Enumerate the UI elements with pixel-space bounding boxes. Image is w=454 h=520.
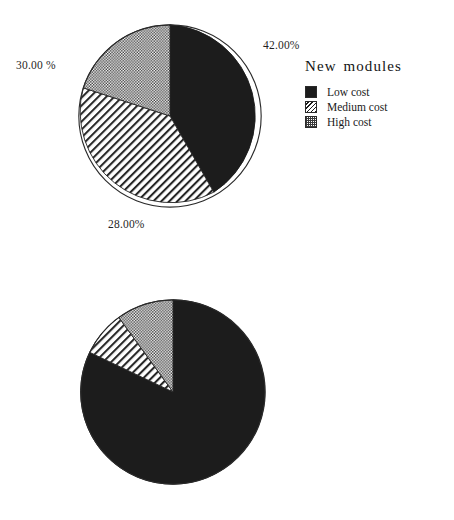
legend-swatch-medium-cost-icon	[305, 101, 317, 113]
pie-label-high-cost: 30.00 %	[16, 59, 56, 71]
pie-svg-reused-modules	[78, 297, 268, 487]
legend-swatch-low-cost-icon	[305, 86, 317, 98]
legend-item-high-cost: High cost	[305, 116, 454, 128]
figure-reused-modules: 82.00% 8.00% 10.00% Reused modules Low c…	[0, 260, 454, 520]
legend-label-high-cost: High cost	[327, 116, 371, 128]
legend-label-medium-cost: Medium cost	[327, 101, 387, 113]
pie-chart-reused-modules	[78, 297, 268, 487]
pie-label-low-cost: 42.00%	[263, 39, 300, 51]
pie-svg-new-modules	[76, 22, 264, 210]
legend-item-medium-cost: Medium cost	[305, 101, 454, 113]
legend-label-low-cost: Low cost	[327, 86, 369, 98]
legend-item-low-cost: Low cost	[305, 86, 454, 98]
pie-label-medium-cost: 28.00%	[108, 218, 145, 230]
pie-chart-new-modules	[76, 22, 264, 210]
pie-chart-figure-page: { "chart_data": [ { "type": "pie", "titl…	[0, 0, 454, 520]
legend-swatch-high-cost-icon	[305, 116, 317, 128]
figure-new-modules: 42.00% 28.00% 30.00 % New modules Low co…	[0, 0, 454, 260]
legend-title: New modules	[305, 58, 454, 75]
legend-new-modules: New modules Low cost Medium cost High co…	[305, 58, 454, 131]
